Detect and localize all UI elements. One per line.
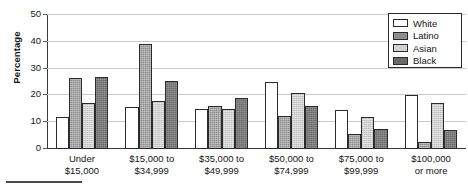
x-axis-category-line: $100,000 (396, 153, 466, 165)
x-axis-category-line: or more (396, 165, 466, 177)
y-tick-0 (43, 148, 47, 149)
bar (418, 142, 431, 149)
legend-item-white: White (393, 17, 461, 30)
x-axis-category-label: $75,000 to$99,999 (326, 153, 396, 176)
y-tick-20 (43, 94, 47, 95)
bar (405, 95, 418, 149)
x-axis-category-line: $15,000 (47, 165, 117, 177)
legend-swatch-black (393, 57, 408, 65)
y-tick-label: 40 (11, 35, 41, 46)
y-tick-label: 0 (11, 142, 41, 153)
x-axis-category-line: $50,000 to (257, 153, 327, 165)
x-axis-line (47, 148, 466, 149)
x-axis-category-line: $99,999 (326, 165, 396, 177)
bar (82, 103, 95, 149)
x-axis-category-label: $35,000 to$49,999 (187, 153, 257, 176)
y-tick-label: 30 (11, 62, 41, 73)
bar (139, 44, 152, 149)
bar (165, 81, 178, 149)
bar (278, 116, 291, 150)
bar (152, 101, 165, 149)
bar (125, 107, 138, 149)
y-tick-50 (43, 14, 47, 15)
bar (444, 130, 457, 149)
bar (374, 129, 387, 149)
x-axis-category-line: $49,999 (187, 165, 257, 177)
bar (431, 103, 444, 149)
x-axis-category-label: Under$15,000 (47, 153, 117, 176)
legend-label: White (413, 18, 437, 29)
bar (69, 78, 82, 149)
y-axis-line (47, 14, 48, 149)
x-axis-category-line: $74,999 (257, 165, 327, 177)
legend-item-asian: Asian (393, 42, 461, 55)
legend-item-latino: Latino (393, 30, 461, 43)
bar (95, 77, 108, 149)
y-tick-label: 20 (11, 88, 41, 99)
bar (208, 106, 221, 149)
bar (222, 109, 235, 149)
bar (305, 106, 318, 149)
legend-item-black: Black (393, 55, 461, 68)
legend-label: Latino (413, 30, 439, 41)
bar (265, 82, 278, 149)
legend-swatch-latino (393, 32, 408, 40)
legend-swatch-white (393, 19, 408, 27)
y-tick-label: 10 (11, 115, 41, 126)
gridline-20 (47, 94, 466, 95)
legend-label: Black (413, 55, 436, 66)
gridline-10 (47, 121, 466, 122)
y-tick-30 (43, 68, 47, 69)
x-axis-category-label: $50,000 to$74,999 (257, 153, 327, 176)
x-axis-category-line: $75,000 to (326, 153, 396, 165)
bar (335, 110, 348, 149)
y-tick-label: 50 (11, 8, 41, 19)
x-axis-category-line: $35,000 to (187, 153, 257, 165)
bar (348, 134, 361, 149)
x-axis-category-line: Under (47, 153, 117, 165)
bar-chart: Percentage 01020304050 WhiteLatinoAsianB… (0, 0, 468, 190)
bar (361, 117, 374, 149)
legend: WhiteLatinoAsianBlack (388, 13, 462, 68)
bar (56, 117, 69, 149)
x-axis-category-label: $15,000 to$34,999 (117, 153, 187, 176)
bar (235, 98, 248, 149)
bar (195, 109, 208, 149)
legend-label: Asian (413, 43, 437, 54)
legend-swatch-asian (393, 44, 408, 52)
x-axis-category-line: $34,999 (117, 165, 187, 177)
y-tick-10 (43, 121, 47, 122)
footer-divider (6, 181, 82, 183)
y-tick-40 (43, 41, 47, 42)
bar (291, 93, 304, 149)
x-axis-category-line: $15,000 to (117, 153, 187, 165)
x-axis-category-label: $100,000or more (396, 153, 466, 176)
